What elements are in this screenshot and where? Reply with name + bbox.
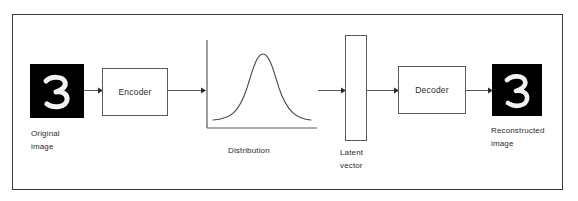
- arrow-original-to-encoder: [84, 86, 103, 95]
- reconstructed-digit-glyph: [492, 64, 542, 116]
- encoder-label: Encoder: [118, 87, 151, 97]
- arrow-distribution-to-latent: [318, 86, 346, 95]
- latent-vector-caption: Latent vector: [340, 146, 390, 172]
- decoder-box: Decoder: [398, 66, 466, 114]
- arrow-decoder-to-reconstructed: [466, 86, 493, 95]
- arrow-encoder-to-distribution: [168, 86, 206, 95]
- original-digit-glyph: [30, 64, 84, 118]
- latent-vector-box: [345, 35, 367, 141]
- original-image-caption: Original image: [31, 127, 101, 153]
- arrow-latent-to-decoder: [367, 86, 399, 95]
- decoder-label: Decoder: [415, 85, 449, 95]
- vae-pipeline-figure: Original image Encoder Distribution: [0, 0, 578, 201]
- reconstructed-image-thumbnail: [492, 64, 542, 116]
- distribution-plot: [205, 40, 317, 133]
- original-image-thumbnail: [30, 64, 84, 118]
- reconstructed-image-caption: Reconstructed image: [491, 124, 573, 150]
- distribution-caption: Distribution: [228, 144, 318, 157]
- encoder-box: Encoder: [102, 68, 168, 116]
- distribution-curve: [213, 54, 311, 120]
